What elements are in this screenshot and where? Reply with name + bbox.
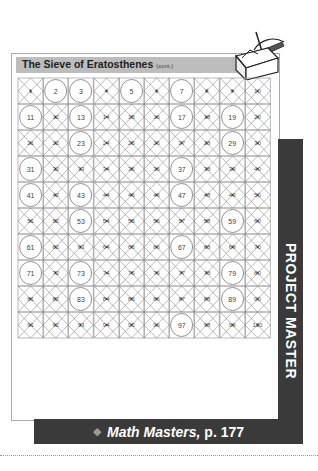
sieve-cell-crossed: 9 xyxy=(220,78,245,104)
sieve-cell-crossed: 25 xyxy=(119,130,144,156)
sieve-cell-crossed: 33 xyxy=(68,156,93,182)
sieve-cell-crossed: 99 xyxy=(220,312,245,338)
sieve-cell-number: 80 xyxy=(245,260,270,286)
sieve-cell-number: 31 xyxy=(18,156,43,182)
sieve-cell-crossed: 85 xyxy=(119,286,144,312)
sieve-cell-prime: 13 xyxy=(68,104,93,130)
sieve-cell-crossed: 40 xyxy=(245,156,270,182)
sieve-cell-number: 74 xyxy=(94,260,119,286)
sieve-cell-crossed: 80 xyxy=(245,260,270,286)
sieve-cell-prime: 43 xyxy=(68,182,93,208)
sieve-cell-prime: 89 xyxy=(220,286,245,312)
sieve-cell-crossed: 44 xyxy=(94,182,119,208)
sieve-cell-crossed: 57 xyxy=(169,208,194,234)
sieve-cell-crossed: 90 xyxy=(245,286,270,312)
sieve-cell-prime: 67 xyxy=(169,234,194,260)
sieve-cell-number: 8 xyxy=(194,78,219,104)
sieve-cell-number: 24 xyxy=(94,130,119,156)
sieve-cell-number: 15 xyxy=(119,104,144,130)
sieve-cell-number: 25 xyxy=(119,130,144,156)
sieve-cell-crossed: 87 xyxy=(169,286,194,312)
sieve-cell-prime: 19 xyxy=(220,104,245,130)
sieve-cell-prime: 37 xyxy=(169,156,194,182)
banner-page: p. 177 xyxy=(204,424,244,440)
sieve-cell-crossed: 63 xyxy=(68,234,93,260)
sieve-cell-crossed: 18 xyxy=(194,104,219,130)
sieve-cell-crossed: 51 xyxy=(18,208,43,234)
sieve-cell-number: 93 xyxy=(68,312,93,338)
sieve-cell-prime: 61 xyxy=(18,234,43,260)
sieve-cell-prime: 71 xyxy=(18,260,43,286)
sieve-cell-number: 79 xyxy=(220,260,245,286)
sieve-cell-number: 60 xyxy=(245,208,270,234)
sieve-cell-crossed: 82 xyxy=(43,286,68,312)
sieve-grid: 1234567891011121314151617181920212223242… xyxy=(18,78,270,338)
sieve-cell-crossed: 81 xyxy=(18,286,43,312)
sieve-cell-number: 55 xyxy=(119,208,144,234)
sieve-cell-number: 92 xyxy=(43,312,68,338)
sieve-cell-number: 11 xyxy=(18,104,43,130)
sieve-cell-number: 19 xyxy=(220,104,245,130)
sieve-cell-crossed: 84 xyxy=(94,286,119,312)
sieve-cell-prime: 17 xyxy=(169,104,194,130)
sieve-cell-number: 41 xyxy=(18,182,43,208)
sieve-cell-number: 23 xyxy=(68,130,93,156)
sieve-cell-prime: 53 xyxy=(68,208,93,234)
sieve-cell-number: 34 xyxy=(94,156,119,182)
sieve-cell-number: 83 xyxy=(68,286,93,312)
sieve-cell-crossed: 50 xyxy=(245,182,270,208)
sieve-cell-number: 51 xyxy=(18,208,43,234)
sieve-cell-number: 50 xyxy=(245,182,270,208)
sieve-cell-number: 88 xyxy=(194,286,219,312)
sieve-cell-crossed: 6 xyxy=(144,78,169,104)
sieve-cell-crossed: 74 xyxy=(94,260,119,286)
sieve-cell-number: 26 xyxy=(144,130,169,156)
sieve-cell-number: 86 xyxy=(144,286,169,312)
sieve-cell-number: 100 xyxy=(245,312,270,338)
sieve-cell-crossed: 42 xyxy=(43,182,68,208)
sieve-cell-crossed: 27 xyxy=(169,130,194,156)
sieve-cell-number: 70 xyxy=(245,234,270,260)
sieve-cell-number: 52 xyxy=(43,208,68,234)
sieve-cell-number: 37 xyxy=(169,156,194,182)
sieve-cell-crossed: 100 xyxy=(245,312,270,338)
sieve-cell-number: 57 xyxy=(169,208,194,234)
sieve-cell-number: 16 xyxy=(144,104,169,130)
sieve-cell-number: 82 xyxy=(43,286,68,312)
sieve-cell-crossed: 56 xyxy=(144,208,169,234)
sieve-cell-number: 99 xyxy=(220,312,245,338)
sieve-cell-number: 10 xyxy=(245,78,270,104)
sieve-cell-number: 78 xyxy=(194,260,219,286)
sieve-cell-number: 43 xyxy=(68,182,93,208)
sieve-cell-crossed: 69 xyxy=(220,234,245,260)
sieve-cell-crossed: 58 xyxy=(194,208,219,234)
sieve-cell-prime: 73 xyxy=(68,260,93,286)
title-subtitle: (cont.) xyxy=(156,63,173,69)
sieve-cell-prime: 11 xyxy=(18,104,43,130)
sieve-cell-crossed: 94 xyxy=(94,312,119,338)
sieve-cell-crossed: 91 xyxy=(18,312,43,338)
sieve-cell-crossed: 48 xyxy=(194,182,219,208)
sieve-cell-crossed: 32 xyxy=(43,156,68,182)
sieve-cell-prime: 59 xyxy=(220,208,245,234)
sieve-cell-prime: 97 xyxy=(169,312,194,338)
sieve-cell-prime: 47 xyxy=(169,182,194,208)
sieve-cell-number: 42 xyxy=(43,182,68,208)
sieve-cell-number: 28 xyxy=(194,130,219,156)
sieve-cell-number: 98 xyxy=(194,312,219,338)
sieve-cell-crossed: 49 xyxy=(220,182,245,208)
sieve-cell-number: 1 xyxy=(18,78,43,104)
sieve-cell-crossed: 10 xyxy=(245,78,270,104)
sieve-cell-prime: 31 xyxy=(18,156,43,182)
sieve-cell-prime: 23 xyxy=(68,130,93,156)
sieve-cell-number: 38 xyxy=(194,156,219,182)
sieve-cell-crossed: 93 xyxy=(68,312,93,338)
sieve-cell-crossed: 62 xyxy=(43,234,68,260)
sieve-cell-number: 54 xyxy=(94,208,119,234)
sieve-cell-number: 6 xyxy=(144,78,169,104)
sieve-cell-crossed: 16 xyxy=(144,104,169,130)
sieve-cell-number: 63 xyxy=(68,234,93,260)
sieve-cell-number: 67 xyxy=(169,234,194,260)
sieve-cell-number: 40 xyxy=(245,156,270,182)
sieve-cell-number: 91 xyxy=(18,312,43,338)
